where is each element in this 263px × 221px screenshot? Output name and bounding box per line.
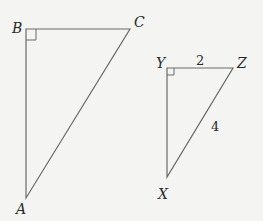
vertex-label-z: Z [236, 55, 247, 71]
side-label-yz: 2 [196, 53, 204, 68]
triangle-xyz-outline [167, 68, 233, 177]
triangle-xyz: Y Z X 2 4 [156, 53, 247, 202]
right-angle-marker-y [167, 68, 174, 75]
similar-triangles-diagram: B C A Y Z X 2 4 [0, 0, 263, 221]
triangle-abc-outline [26, 29, 130, 198]
right-angle-marker-b [26, 29, 36, 40]
vertex-label-x: X [157, 186, 169, 202]
vertex-label-y: Y [156, 55, 167, 71]
vertex-label-c: C [134, 14, 145, 30]
vertex-label-a: A [14, 201, 26, 217]
vertex-label-b: B [11, 20, 22, 36]
triangle-abc: B C A [11, 14, 145, 217]
side-label-xz: 4 [211, 119, 219, 134]
